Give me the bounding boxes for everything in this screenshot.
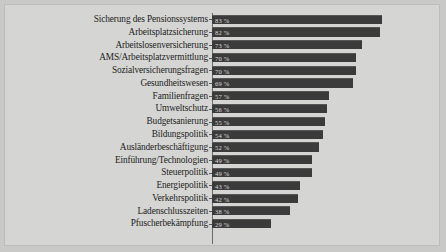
bar-value-label: 54 % — [215, 131, 230, 140]
chart-frame: Sicherung des Pensionssystems83 %Arbeits… — [4, 4, 440, 246]
bar: 54 % — [212, 130, 323, 139]
bar: 49 % — [212, 155, 312, 164]
bar: 43 % — [212, 181, 300, 190]
bar-row: Sozialversicherungsfragen70 % — [5, 64, 441, 77]
bar-row: Arbeitslosenversicherung73 % — [5, 39, 441, 52]
bar: 49 % — [212, 168, 312, 177]
category-label: Budgetsanierung — [5, 115, 208, 128]
bar-row: Arbeitsplatzsicherung82 % — [5, 26, 441, 39]
bar-row: Umweltschutz56 % — [5, 102, 441, 115]
bar-row: Budgetsanierung55 % — [5, 115, 441, 128]
bar-value-label: 82 % — [215, 28, 230, 37]
bar-value-label: 83 % — [215, 16, 230, 25]
bar: 73 % — [212, 40, 362, 49]
category-label: Sozialversicherungsfragen — [5, 64, 208, 77]
category-label: Sicherung des Pensionssystems — [5, 13, 208, 26]
category-label: Arbeitslosenversicherung — [5, 39, 208, 52]
bar: 38 % — [212, 206, 290, 215]
bar: 83 % — [212, 15, 382, 24]
bar: 42 % — [212, 194, 298, 203]
bar-value-label: 55 % — [215, 118, 230, 127]
bar: 57 % — [212, 91, 329, 100]
bar: 82 % — [212, 27, 380, 36]
bar-row: Familienfragen57 % — [5, 90, 441, 103]
bar-value-label: 56 % — [215, 105, 230, 114]
bar-chart: Sicherung des Pensionssystems83 %Arbeits… — [5, 5, 441, 247]
category-label: Bildungspolitik — [5, 128, 208, 141]
category-label: Umweltschutz — [5, 102, 208, 115]
bar: 29 % — [212, 219, 271, 228]
bar: 70 % — [212, 53, 356, 62]
bar-value-label: 69 % — [215, 79, 230, 88]
bar: 55 % — [212, 117, 325, 126]
bar-value-label: 43 % — [215, 182, 230, 191]
bar-row: Einführung/Technologien49 % — [5, 154, 441, 167]
bar-value-label: 49 % — [215, 169, 230, 178]
bar-row: Pfuscherbekämpfung29 % — [5, 217, 441, 230]
bar-row: AMS/Arbeitsplatzvermittlung70 % — [5, 51, 441, 64]
bar-value-label: 57 % — [215, 92, 230, 101]
bar-row: Sicherung des Pensionssystems83 % — [5, 13, 441, 26]
bar: 56 % — [212, 104, 327, 113]
bar-row: Energiepolitik43 % — [5, 179, 441, 192]
bar-value-label: 70 % — [215, 67, 230, 76]
bar-row: Ausländerbeschäftigung52 % — [5, 141, 441, 154]
category-label: Steuerpolitik — [5, 166, 208, 179]
category-label: Verkehrspolitik — [5, 192, 208, 205]
bar-row: Bildungspolitik54 % — [5, 128, 441, 141]
bar-value-label: 29 % — [215, 220, 230, 229]
bar-row: Steuerpolitik49 % — [5, 166, 441, 179]
bar-value-label: 73 % — [215, 41, 230, 50]
category-label: AMS/Arbeitsplatzvermittlung — [5, 51, 208, 64]
category-label: Arbeitsplatzsicherung — [5, 26, 208, 39]
category-label: Pfuscherbekämpfung — [5, 217, 208, 230]
category-label: Gesundheitswesen — [5, 77, 208, 90]
category-label: Familienfragen — [5, 90, 208, 103]
bar: 70 % — [212, 66, 356, 75]
bar-value-label: 38 % — [215, 207, 230, 216]
bar: 52 % — [212, 142, 319, 151]
bar-row: Gesundheitswesen69 % — [5, 77, 441, 90]
category-label: Ladenschlusszeiten — [5, 205, 208, 218]
bar-row: Verkehrspolitik42 % — [5, 192, 441, 205]
bar-value-label: 52 % — [215, 143, 230, 152]
bar-value-label: 70 % — [215, 54, 230, 63]
bar-row: Ladenschlusszeiten38 % — [5, 205, 441, 218]
category-label: Einführung/Technologien — [5, 154, 208, 167]
bar-value-label: 42 % — [215, 195, 230, 204]
category-label: Energiepolitik — [5, 179, 208, 192]
bar: 69 % — [212, 78, 353, 87]
category-label: Ausländerbeschäftigung — [5, 141, 208, 154]
bar-value-label: 49 % — [215, 156, 230, 165]
